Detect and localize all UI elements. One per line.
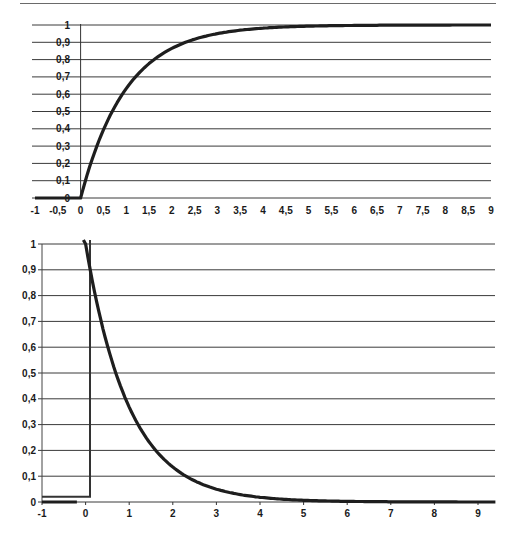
y-tick-label: 0,4 (56, 123, 70, 134)
x-tick-label: 9 (488, 205, 494, 216)
x-tick-label: 6 (351, 205, 357, 216)
y-tick-label: 0,1 (56, 175, 70, 186)
x-tick-label: 8 (432, 508, 438, 519)
y-tick-label: 0,3 (56, 141, 70, 152)
x-tick-label: 8,5 (461, 205, 475, 216)
x-tick-label: 1,5 (142, 205, 156, 216)
y-tick-label: 0,8 (56, 54, 70, 65)
x-axis-tick-labels: -10123456789 (38, 502, 482, 519)
x-tick-label: 7 (388, 508, 394, 519)
x-tick-label: 0 (78, 205, 84, 216)
chart-decaying-exponential: 00,10,20,30,40,50,60,70,80,91 -101234567… (0, 230, 510, 530)
x-tick-label: 8 (443, 205, 449, 216)
x-tick-label: -1 (38, 508, 47, 519)
x-tick-label: 1 (123, 205, 129, 216)
y-tick-label: 1 (30, 239, 36, 250)
x-tick-label: 7,5 (416, 205, 430, 216)
x-tick-label: 2,5 (188, 205, 202, 216)
y-axis-tick-labels: 00,10,20,30,40,50,60,70,80,91 (56, 20, 70, 204)
x-tick-label: 4 (260, 205, 266, 216)
x-axis-tick-labels: -1-0,500,511,522,533,544,555,566,577,588… (31, 205, 495, 216)
y-tick-label: 0,7 (56, 71, 70, 82)
x-tick-label: 0,5 (96, 205, 110, 216)
decay-curve (83, 240, 495, 502)
x-tick-label: 5 (301, 508, 307, 519)
x-tick-label: 7 (397, 205, 403, 216)
x-tick-label: 0 (83, 508, 89, 519)
y-tick-label: 0,9 (56, 37, 70, 48)
y-tick-label: 0,6 (22, 342, 36, 353)
y-tick-label: 0,8 (22, 290, 36, 301)
y-tick-label: 0,2 (56, 158, 70, 169)
y-tick-label: 0,1 (22, 471, 36, 482)
x-tick-label: 6 (344, 508, 350, 519)
x-tick-label: 5,5 (324, 205, 338, 216)
y-tick-label: 0,5 (56, 106, 70, 117)
y-tick-label: 1 (64, 20, 70, 31)
x-tick-label: 3,5 (233, 205, 247, 216)
x-tick-label: 2 (169, 205, 175, 216)
step-outline (42, 240, 90, 497)
y-gridlines (38, 244, 495, 502)
x-tick-label: 9 (475, 508, 481, 519)
x-tick-label: 3 (214, 508, 220, 519)
y-tick-label: 0 (30, 497, 36, 508)
x-tick-label: 6,5 (370, 205, 384, 216)
x-tick-label: -0,5 (49, 205, 67, 216)
y-gridlines (32, 25, 491, 198)
x-tick-label: 3 (215, 205, 221, 216)
y-tick-label: 0,7 (22, 316, 36, 327)
y-tick-label: 0,4 (22, 393, 36, 404)
x-tick-label: 5 (306, 205, 312, 216)
y-tick-label: 0,3 (22, 419, 36, 430)
x-tick-label: 2 (170, 508, 176, 519)
chart-rising-exponential: 00,10,20,30,40,50,60,70,80,91 -1-0,500,5… (0, 0, 510, 225)
x-tick-label: -1 (31, 205, 40, 216)
x-tick-label: 1 (126, 508, 132, 519)
x-tick-label: 4,5 (279, 205, 293, 216)
y-tick-label: 0,9 (22, 264, 36, 275)
y-tick-label: 0,6 (56, 89, 70, 100)
y-tick-label: 0,5 (22, 368, 36, 379)
x-tick-label: 4 (257, 508, 263, 519)
y-tick-label: 0,2 (22, 445, 36, 456)
y-axis-tick-labels: 00,10,20,30,40,50,60,70,80,91 (22, 239, 36, 508)
